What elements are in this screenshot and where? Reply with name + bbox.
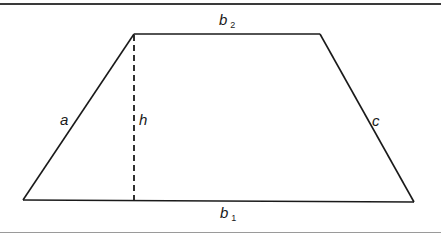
label-b1-base: b bbox=[220, 204, 228, 221]
label-b2: b2 bbox=[219, 12, 235, 30]
right-side-c bbox=[320, 34, 414, 202]
diagram-frame: b2 b1 a h c bbox=[0, 0, 441, 234]
bottom-rule bbox=[0, 232, 441, 233]
label-h: h bbox=[139, 112, 147, 127]
label-b2-subscript: 2 bbox=[230, 20, 235, 30]
label-a: a bbox=[60, 112, 68, 127]
bottom-base-b1 bbox=[23, 200, 414, 202]
label-c: c bbox=[372, 113, 380, 128]
left-side-a bbox=[23, 34, 134, 200]
label-b1-subscript: 1 bbox=[231, 213, 236, 223]
label-b2-base: b bbox=[219, 11, 227, 28]
label-b1: b1 bbox=[220, 205, 236, 223]
